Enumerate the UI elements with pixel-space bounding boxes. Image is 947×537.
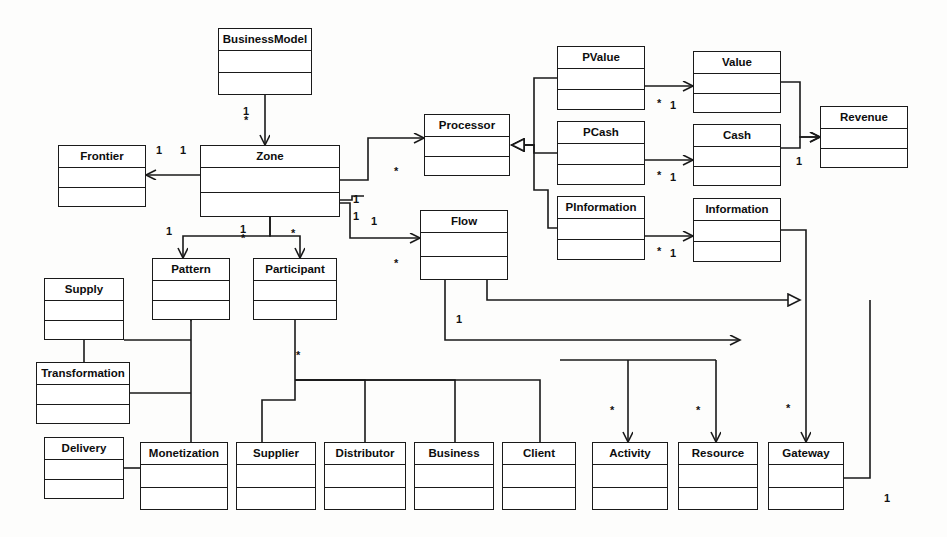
class-name-pinformation: PInformation xyxy=(558,197,644,219)
edge-flow-generalization xyxy=(487,280,800,300)
multiplicity-m-zone-flow-b: 1 xyxy=(353,211,359,222)
uml-class-delivery[interactable]: Delivery xyxy=(44,437,124,499)
class-name-processor: Processor xyxy=(425,115,509,137)
class-attributes-information xyxy=(694,221,780,242)
class-name-flow: Flow xyxy=(421,211,507,233)
class-attributes-pattern xyxy=(153,281,229,301)
multiplicity-m-pcash-b: 1 xyxy=(670,172,676,183)
uml-class-distributor[interactable]: Distributor xyxy=(324,442,406,510)
class-operations-distributor xyxy=(325,488,405,510)
edge-information-down xyxy=(781,230,806,300)
class-operations-businessmodel xyxy=(219,73,311,94)
multiplicity-m-pvalue-b: 1 xyxy=(670,100,676,111)
class-attributes-cash xyxy=(694,147,780,167)
class-attributes-business xyxy=(415,465,493,488)
uml-class-activity[interactable]: Activity xyxy=(592,442,668,510)
uml-class-gateway[interactable]: Gateway xyxy=(768,442,844,510)
class-operations-monetization xyxy=(141,488,227,510)
class-operations-delivery xyxy=(45,480,123,499)
uml-class-processor[interactable]: Processor xyxy=(424,114,510,176)
class-operations-supplier xyxy=(237,488,315,510)
uml-class-supply[interactable]: Supply xyxy=(44,278,124,340)
class-name-pvalue: PValue xyxy=(558,47,644,69)
multiplicity-m-zone-flow-c: 1 xyxy=(371,216,377,227)
class-name-revenue: Revenue xyxy=(821,107,907,129)
edge-zone-pattern xyxy=(183,217,270,258)
uml-class-diagram: BusinessModelFrontierZoneProcessorFlowPV… xyxy=(0,0,947,537)
multiplicity-m-zone-part-1: 1* xyxy=(240,225,246,243)
class-operations-pcash xyxy=(558,165,644,185)
multiplicity-m-gateway: * xyxy=(786,403,790,414)
class-attributes-participant xyxy=(254,281,336,301)
edge-zone-participant xyxy=(270,217,300,258)
uml-class-zone[interactable]: Zone xyxy=(200,145,340,217)
uml-class-business[interactable]: Business xyxy=(414,442,494,510)
class-attributes-pvalue xyxy=(558,69,644,90)
class-attributes-delivery xyxy=(45,460,123,480)
class-attributes-pinformation xyxy=(558,219,644,240)
uml-class-supplier[interactable]: Supplier xyxy=(236,442,316,510)
class-name-resource: Resource xyxy=(679,443,757,465)
uml-class-value[interactable]: Value xyxy=(693,51,781,113)
uml-class-pinformation[interactable]: PInformation xyxy=(557,196,645,260)
class-name-pcash: PCash xyxy=(558,122,644,144)
class-attributes-processor xyxy=(425,137,509,157)
multiplicity-m-part-inh: * xyxy=(296,350,300,361)
class-name-activity: Activity xyxy=(593,443,667,465)
class-attributes-activity xyxy=(593,465,667,488)
edge-rail-connector xyxy=(445,340,560,360)
uml-class-flow[interactable]: Flow xyxy=(420,210,508,280)
uml-class-transformation[interactable]: Transformation xyxy=(36,362,130,424)
class-attributes-frontier xyxy=(59,168,145,188)
uml-class-businessmodel[interactable]: BusinessModel xyxy=(218,28,312,95)
class-name-participant: Participant xyxy=(254,259,336,281)
edge-flow-incoming xyxy=(445,280,740,340)
multiplicity-m-zone-flow-a: 1 xyxy=(353,194,359,205)
class-attributes-flow xyxy=(421,233,507,257)
class-attributes-supply xyxy=(45,301,123,321)
class-name-gateway: Gateway xyxy=(769,443,843,465)
class-name-client: Client xyxy=(503,443,575,465)
uml-class-information[interactable]: Information xyxy=(693,198,781,262)
class-name-value: Value xyxy=(694,52,780,74)
uml-class-pcash[interactable]: PCash xyxy=(557,121,645,185)
uml-class-client[interactable]: Client xyxy=(502,442,576,510)
uml-class-cash[interactable]: Cash xyxy=(693,124,781,186)
class-name-cash: Cash xyxy=(694,125,780,147)
class-operations-value xyxy=(694,94,780,113)
uml-class-frontier[interactable]: Frontier xyxy=(58,145,146,207)
edge-client-participant xyxy=(295,380,540,442)
multiplicity-m-pcash-a: * xyxy=(657,170,661,181)
uml-class-pvalue[interactable]: PValue xyxy=(557,46,645,110)
uml-class-revenue[interactable]: Revenue xyxy=(820,106,908,168)
multiplicity-m-flow-star: * xyxy=(394,258,398,269)
class-name-zone: Zone xyxy=(201,146,339,168)
uml-class-resource[interactable]: Resource xyxy=(678,442,758,510)
class-operations-zone xyxy=(201,193,339,217)
class-operations-pinformation xyxy=(558,240,644,260)
class-attributes-value xyxy=(694,74,780,94)
class-operations-activity xyxy=(593,488,667,510)
class-attributes-revenue xyxy=(821,129,907,149)
multiplicity-m-pinfo-b: 1 xyxy=(670,248,676,259)
multiplicity-m-flow-bot: 1 xyxy=(456,314,462,325)
class-name-information: Information xyxy=(694,199,780,221)
multiplicity-m-gateway-one: 1 xyxy=(884,493,890,504)
class-attributes-gateway xyxy=(769,465,843,488)
uml-class-pattern[interactable]: Pattern xyxy=(152,258,230,320)
class-operations-transformation xyxy=(37,405,129,424)
class-name-supply: Supply xyxy=(45,279,123,301)
class-operations-flow xyxy=(421,257,507,280)
edge-supplier-participant xyxy=(262,362,295,442)
uml-class-participant[interactable]: Participant xyxy=(253,258,337,320)
edge-zone-stub xyxy=(340,196,364,200)
class-attributes-resource xyxy=(679,465,757,488)
multiplicity-m-activity: * xyxy=(610,405,614,416)
edge-gateway-loop xyxy=(844,300,870,478)
class-operations-pvalue xyxy=(558,90,644,110)
class-name-pattern: Pattern xyxy=(153,259,229,281)
multiplicity-m-pvalue-a: * xyxy=(657,98,661,109)
class-attributes-client xyxy=(503,465,575,488)
uml-class-monetization[interactable]: Monetization xyxy=(140,442,228,510)
class-attributes-pcash xyxy=(558,144,644,165)
